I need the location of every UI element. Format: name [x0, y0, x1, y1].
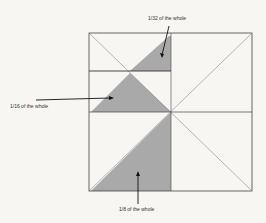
shaded-triangle-1-32	[130, 36, 171, 71]
arrow-middle	[36, 98, 110, 100]
shaded-triangle-1-16	[91, 73, 171, 112]
label-1-32: 1/32 of the whole	[148, 15, 186, 21]
fraction-diagram	[0, 0, 266, 223]
label-1-8: 1/8 of the whole	[119, 206, 154, 212]
label-1-16: 1/16 of the whole	[10, 103, 48, 109]
shaded-triangle-1-8	[91, 112, 171, 191]
